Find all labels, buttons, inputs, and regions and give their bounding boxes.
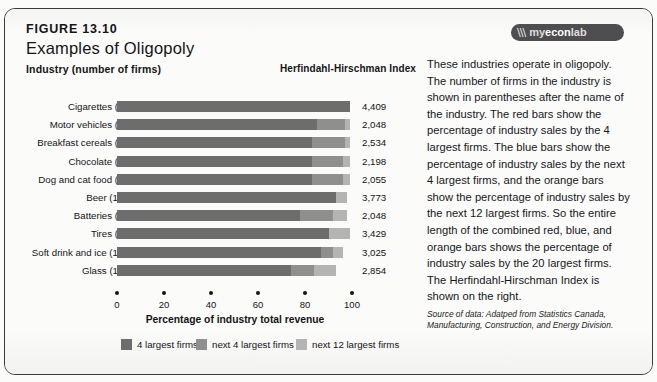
x-axis-title: Percentage of industry total revenue: [117, 314, 353, 325]
stacked-bar: [117, 192, 347, 203]
bar-segment-1: [117, 265, 291, 276]
legend-item: next 12 largest firms: [296, 339, 399, 350]
table-row: Dog and cat food (38)2,055: [0, 173, 420, 186]
bar-segment-3: [333, 210, 347, 221]
hhi-value: 2,534: [362, 136, 386, 149]
hhi-value: 2,048: [362, 209, 386, 222]
myeconlab-mark-icon: \\\: [517, 27, 525, 38]
bar-segment-2: [312, 137, 345, 148]
logo-prefix: my: [529, 26, 545, 38]
tick-label: 20: [159, 299, 170, 310]
table-row: Chocolate (32)2,198: [0, 155, 420, 168]
hhi-value: 3,773: [362, 191, 386, 204]
table-row: Glass (105)2,854: [0, 264, 420, 277]
myeconlab-logo[interactable]: \\\ myeconlab: [511, 24, 624, 41]
tick-dot-icon: [162, 291, 166, 295]
bar-segment-1: [117, 192, 336, 203]
industry-label: Beer (104): [12, 191, 132, 204]
bar-segment-2: [321, 247, 333, 258]
source-label: Source of data:: [427, 309, 484, 319]
industry-label: Tires (65): [12, 227, 132, 240]
bar-segment-3: [345, 137, 350, 148]
table-row: Cigarettes (14)4,409: [0, 100, 420, 113]
table-row: Beer (104)3,773: [0, 191, 420, 204]
bar-segment-3: [333, 247, 342, 258]
tick-label: 80: [300, 299, 311, 310]
legend-item: 4 largest firms: [121, 339, 198, 350]
industry-label: Cigarettes (14): [12, 100, 132, 113]
hhi-value: 4,409: [362, 100, 386, 113]
bar-segment-3: [329, 228, 350, 239]
bar-segment-2: [291, 265, 315, 276]
bar-segment-1: [117, 137, 312, 148]
tick-dot-icon: [209, 291, 213, 295]
legend-label: next 4 largest firms: [212, 339, 294, 350]
bar-segment-1: [117, 174, 312, 185]
tick-dot-icon: [256, 291, 260, 295]
legend-swatch: [121, 339, 132, 350]
industry-label: Dog and cat food (38): [12, 173, 132, 186]
bar-segment-1: [117, 156, 312, 167]
logo-mid: econ: [545, 26, 571, 38]
stacked-bar: [117, 156, 350, 167]
bar-segment-1: [117, 247, 321, 258]
bar-segment-2: [317, 119, 345, 130]
x-axis: 020406080100 Percentage of industry tota…: [0, 291, 420, 331]
hhi-value: 2,048: [362, 118, 386, 131]
legend-item: next 4 largest firms: [196, 339, 294, 350]
table-row: Soft drink and ice (157)3,025: [0, 246, 420, 259]
industry-label: Soft drink and ice (157): [12, 246, 132, 259]
hhi-value: 3,025: [362, 246, 386, 259]
stacked-bar: [117, 101, 350, 112]
industry-label: Motor vehicles (50): [12, 118, 132, 131]
table-row: Motor vehicles (50)2,048: [0, 118, 420, 131]
legend-label: next 12 largest firms: [312, 339, 399, 350]
industry-label: Glass (105): [12, 264, 132, 277]
hhi-value: 2,055: [362, 173, 386, 186]
hhi-value: 3,429: [362, 227, 386, 240]
industry-label: Batteries (30): [12, 209, 132, 222]
bar-segment-3: [345, 119, 350, 130]
explanatory-paragraph: These industries operate in oligopoly. T…: [427, 56, 632, 305]
explanatory-text: These industries operate in oligopoly. T…: [427, 56, 632, 305]
industry-label: Chocolate (32): [12, 155, 132, 168]
oligopoly-bar-chart: Cigarettes (14)4,409Motor vehicles (50)2…: [0, 0, 420, 382]
bar-segment-1: [117, 101, 350, 112]
bar-segment-1: [117, 228, 329, 239]
tick-label: 0: [114, 299, 119, 310]
logo-suffix: lab: [571, 26, 587, 38]
figure-page: \\\ myeconlab FIGURE 13.10 Examples of O…: [0, 0, 657, 382]
bar-segment-2: [312, 156, 343, 167]
bar-segment-1: [117, 119, 317, 130]
table-row: Tires (65)3,429: [0, 227, 420, 240]
tick-label: 40: [206, 299, 217, 310]
stacked-bar: [117, 210, 347, 221]
tick-label: 100: [344, 299, 360, 310]
bar-segment-2: [300, 210, 333, 221]
stacked-bar: [117, 228, 350, 239]
hhi-value: 2,198: [362, 155, 386, 168]
bar-segment-3: [343, 174, 350, 185]
tick-dot-icon: [350, 291, 354, 295]
bar-segment-3: [336, 192, 348, 203]
bar-segment-2: [312, 174, 343, 185]
tick-label: 60: [253, 299, 264, 310]
stacked-bar: [117, 247, 343, 258]
stacked-bar: [117, 119, 350, 130]
stacked-bar: [117, 174, 350, 185]
bar-segment-3: [314, 265, 335, 276]
industry-label: Breakfast cereals (25): [12, 136, 132, 149]
tick-dot-icon: [303, 291, 307, 295]
legend-label: 4 largest firms: [137, 339, 198, 350]
table-row: Batteries (30)2,048: [0, 209, 420, 222]
bar-segment-3: [343, 156, 350, 167]
legend-swatch: [196, 339, 207, 350]
hhi-value: 2,854: [362, 264, 386, 277]
myeconlab-logo-text: myeconlab: [529, 27, 587, 38]
source-note: Source of data: Adatped from Statistics …: [427, 309, 639, 332]
table-row: Breakfast cereals (25)2,534: [0, 136, 420, 149]
stacked-bar: [117, 265, 336, 276]
legend-swatch: [296, 339, 307, 350]
stacked-bar: [117, 137, 350, 148]
bar-segment-1: [117, 210, 300, 221]
